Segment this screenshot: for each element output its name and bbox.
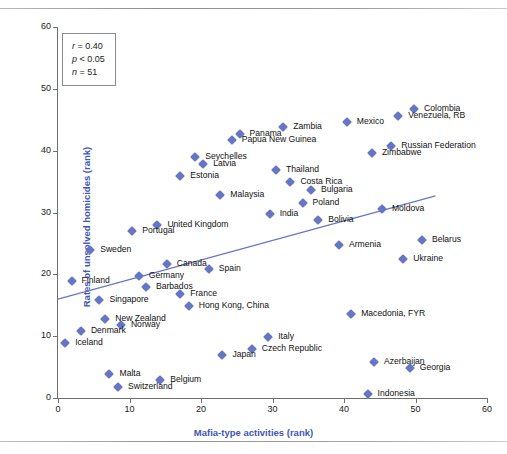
- x-tick-mark: [487, 398, 488, 403]
- data-point-label: Macedonia, FYR: [361, 308, 425, 318]
- data-point-label: Bulgaria: [321, 184, 353, 194]
- data-point-label: Finland: [82, 275, 110, 285]
- data-point-label: Spain: [219, 263, 241, 273]
- x-tick-label: 60: [474, 404, 500, 414]
- data-point-label: Belarus: [432, 234, 461, 244]
- data-point-label: Belgium: [170, 374, 201, 384]
- top-divider-rule: [0, 8, 507, 9]
- data-point-label: Malta: [119, 368, 140, 378]
- data-point-label: United Kingdom: [167, 219, 228, 229]
- x-tick-mark: [130, 398, 131, 403]
- data-point-label: Mexico: [357, 116, 384, 126]
- stat-sample-size: n = 51: [72, 66, 105, 79]
- data-point-label: Italy: [278, 331, 294, 341]
- data-point-label: Hong Kong, China: [199, 300, 269, 310]
- data-point-label: Germany: [149, 270, 184, 280]
- y-tick-mark: [53, 336, 58, 337]
- data-point-label: Iceland: [75, 337, 103, 347]
- data-point-label: Czech Republic: [262, 343, 322, 353]
- x-tick-mark: [273, 398, 274, 403]
- stat-p-value: 0.05: [87, 54, 105, 64]
- y-tick-label: 10: [25, 330, 51, 340]
- bottom-divider-rule: [0, 441, 507, 442]
- x-tick-label: 20: [188, 404, 214, 414]
- stat-r-symbol: r: [72, 41, 75, 51]
- x-tick-mark: [201, 398, 202, 403]
- data-point-label: Malaysia: [230, 189, 264, 199]
- data-point-label: Estonia: [190, 170, 219, 180]
- data-point-label: Canada: [177, 258, 207, 268]
- statistics-annotation-box: r = 0.40 p < 0.05 n = 51: [62, 33, 116, 86]
- y-tick-mark: [53, 27, 58, 28]
- stat-n-value: 51: [87, 67, 97, 77]
- stat-r-operator: =: [78, 41, 83, 51]
- ghost-footer-text: [28, 444, 408, 452]
- stat-n-symbol: n: [72, 67, 77, 77]
- data-point-label: France: [190, 288, 217, 298]
- y-tick-mark: [53, 213, 58, 214]
- y-tick-label: 30: [25, 207, 51, 217]
- stat-n-operator: =: [80, 67, 85, 77]
- y-tick-mark: [53, 151, 58, 152]
- y-tick-label: 20: [25, 268, 51, 278]
- stat-r-value: 0.40: [85, 41, 103, 51]
- stat-p-operator: <: [80, 54, 85, 64]
- x-tick-label: 0: [45, 404, 71, 414]
- data-point-label: Barbados: [156, 281, 193, 291]
- data-point-label: Bolivia: [328, 214, 353, 224]
- x-axis-title: Mafia-type activities (rank): [0, 427, 507, 438]
- x-tick-mark: [416, 398, 417, 403]
- x-tick-label: 10: [117, 404, 143, 414]
- data-point-label: Georgia: [420, 362, 451, 372]
- data-point-label: Armenia: [349, 239, 381, 249]
- y-tick-label: 50: [25, 83, 51, 93]
- y-tick-label: 40: [25, 145, 51, 155]
- data-point-label: Japan: [232, 349, 255, 359]
- plot-area: 0102030405060 0102030405060 ColombiaVene…: [58, 27, 487, 398]
- data-point-label: Zimbabwe: [382, 147, 422, 157]
- data-point-label: Switzerland: [128, 381, 172, 391]
- data-point-label: Azerbaijan: [384, 356, 425, 366]
- x-tick-label: 50: [403, 404, 429, 414]
- data-point-label: Thailand: [286, 164, 319, 174]
- data-point-label: Portugal: [142, 225, 174, 235]
- data-point-label: Poland: [313, 197, 340, 207]
- data-point-label: India: [280, 208, 299, 218]
- scatter-plot-figure: Rates of unsolved homicides (rank) Mafia…: [0, 0, 507, 454]
- data-point-label: Ukraine: [413, 253, 443, 263]
- ghost-header-text: [90, 0, 430, 7]
- data-point-label: Latvia: [213, 158, 236, 168]
- y-tick-mark: [53, 89, 58, 90]
- stat-correlation: r = 0.40: [72, 40, 105, 53]
- data-point-label: Venezuela, RB: [408, 110, 465, 120]
- x-tick-mark: [344, 398, 345, 403]
- data-point-label: Singapore: [109, 294, 148, 304]
- y-tick-label: 0: [25, 392, 51, 402]
- y-tick-label: 60: [25, 21, 51, 31]
- data-point-label: Indonesia: [378, 388, 415, 398]
- data-point-label: Norway: [131, 319, 160, 329]
- x-tick-label: 40: [331, 404, 357, 414]
- stat-p-symbol: p: [72, 54, 77, 64]
- data-point-label: Zambia: [293, 121, 322, 131]
- x-tick-mark: [58, 398, 59, 403]
- data-point-label: Sweden: [100, 244, 131, 254]
- data-point-label: Denmark: [91, 325, 126, 335]
- stat-pvalue: p < 0.05: [72, 53, 105, 66]
- data-point-label: Moldova: [392, 203, 424, 213]
- data-point-label: Papua New Guinea: [242, 134, 317, 144]
- y-tick-mark: [53, 274, 58, 275]
- x-tick-label: 30: [260, 404, 286, 414]
